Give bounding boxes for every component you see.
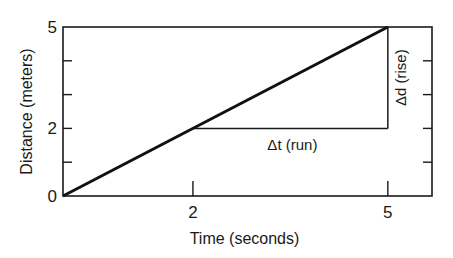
run-annotation: Δt (run) [267, 136, 317, 153]
x-tick-label: 2 [188, 203, 197, 222]
y-tick-label: 2 [48, 119, 57, 138]
x-tick-label: 5 [383, 203, 392, 222]
rise-annotation: Δd (rise) [392, 49, 409, 106]
ticks: 02525 [48, 18, 432, 222]
labels: Time (seconds) Distance (meters) Δt (run… [18, 48, 409, 247]
series-line-distance [63, 27, 388, 196]
y-tick-label: 5 [48, 18, 57, 37]
y-axis-label: Distance (meters) [18, 48, 35, 174]
y-tick-label: 0 [48, 187, 57, 206]
chart: 02525 Time (seconds) Distance (meters) Δ… [0, 0, 453, 258]
series [63, 27, 388, 196]
plot-frame [63, 27, 432, 196]
plot-border [63, 27, 432, 196]
x-axis-label: Time (seconds) [190, 230, 300, 247]
